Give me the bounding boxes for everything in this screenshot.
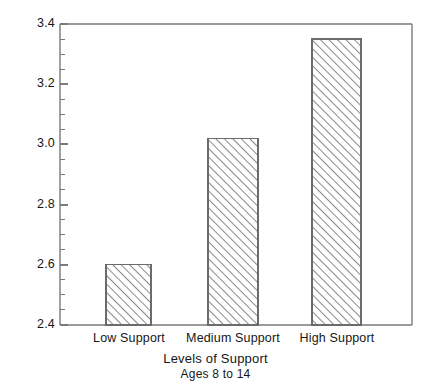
- bar-series: [106, 39, 361, 325]
- y-tick-label-2-4: 2.4: [23, 318, 55, 331]
- x-axis-subtitle: Ages 8 to 14: [0, 367, 431, 381]
- y-tick-label-3-2: 3.2: [23, 77, 55, 90]
- bar-low-support[interactable]: [106, 265, 151, 325]
- bar-medium-support[interactable]: [208, 138, 258, 325]
- y-tick-label-2-8: 2.8: [23, 198, 55, 211]
- bar-high-support[interactable]: [312, 39, 361, 325]
- y-axis-tick-labels: 2.4 2.6 2.8 3.0 3.2 3.4: [20, 0, 55, 388]
- y-tick-label-2-6: 2.6: [23, 258, 55, 271]
- x-axis-title: Levels of Support: [0, 351, 431, 366]
- x-tick-label-high-support: High Support: [272, 331, 402, 345]
- y-tick-label-3-4: 3.4: [23, 17, 55, 30]
- y-axis-minor-ticks: [60, 39, 65, 310]
- y-tick-label-3-0: 3.0: [23, 137, 55, 150]
- chart-canvas: [0, 0, 431, 388]
- bar-chart: 2.4 2.6 2.8 3.0 3.2 3.4 Self-Esteem Scor…: [0, 0, 431, 388]
